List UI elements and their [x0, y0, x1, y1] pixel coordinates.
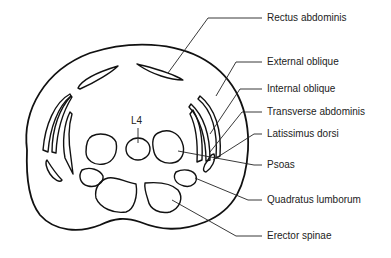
leader-transverse-abdominis	[210, 112, 262, 152]
left-transverse-abdominis	[64, 112, 73, 174]
body-outline	[26, 45, 248, 230]
rectus-abdominis-right	[137, 64, 183, 80]
leader-rectus-abdominis	[168, 18, 262, 73]
label-transverse-abdominis: Transverse abdominis	[267, 106, 365, 118]
rectus-abdominis-left	[78, 66, 118, 89]
psoas-right	[153, 131, 184, 163]
quadratus-lumborum-right	[174, 170, 196, 186]
left-latissimus-dorsi	[46, 160, 62, 181]
label-internal-oblique: Internal oblique	[267, 83, 335, 95]
erector-spinae-right	[145, 183, 181, 213]
label-external-oblique: External oblique	[267, 56, 339, 68]
psoas-left	[86, 134, 117, 164]
leader-erector-spinae	[172, 200, 262, 236]
right-internal-oblique	[189, 104, 210, 161]
label-quadratus-lumborum: Quadratus lumborum	[267, 194, 361, 206]
label-erector-spinae: Erector spinae	[267, 230, 331, 242]
vertebra-label: L4	[131, 115, 142, 127]
label-rectus-abdominis: Rectus abdominis	[267, 12, 346, 24]
label-latissimus-dorsi: Latissimus dorsi	[267, 128, 339, 140]
label-psoas: Psoas	[267, 159, 295, 171]
leader-quadratus-lumborum	[195, 178, 262, 200]
